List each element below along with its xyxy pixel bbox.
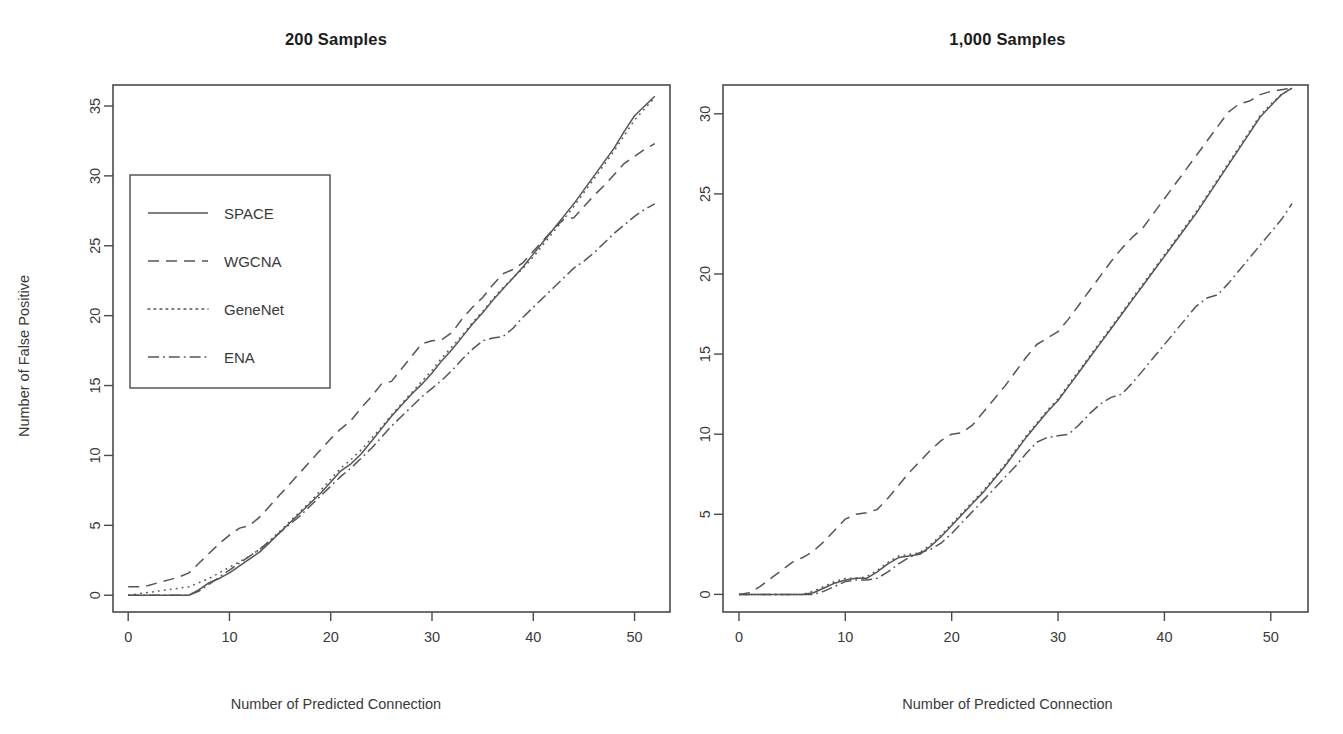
legend-label-genenet: GeneNet <box>224 301 285 318</box>
x-tick-label: 0 <box>735 629 743 645</box>
x-tick-label: 20 <box>944 629 960 645</box>
y-tick-label: 20 <box>87 308 103 324</box>
y-tick-label: 30 <box>697 106 713 122</box>
x-tick-label: 10 <box>837 629 853 645</box>
x-tick-label: 20 <box>323 629 339 645</box>
y-tick-label: 25 <box>697 186 713 202</box>
plot-area-right: 01020304050051015202530 <box>672 0 1343 734</box>
x-tick-label: 50 <box>1263 629 1279 645</box>
x-tick-label: 30 <box>1050 629 1066 645</box>
x-tick-label: 10 <box>221 629 237 645</box>
y-tick-label: 25 <box>87 238 103 254</box>
y-tick-label: 35 <box>87 98 103 114</box>
panel-200-samples: 200 Samples Number of False Positive Num… <box>0 0 672 734</box>
legend-label-space: SPACE <box>224 205 274 222</box>
series-line-space <box>739 88 1292 594</box>
x-tick-label: 40 <box>1156 629 1172 645</box>
x-tick-label: 40 <box>525 629 541 645</box>
y-tick-label: 5 <box>697 510 713 518</box>
series-line-wgcna <box>739 88 1292 594</box>
y-tick-label: 0 <box>697 590 713 598</box>
legend-label-wgcna: WGCNA <box>224 253 282 270</box>
x-tick-label: 50 <box>626 629 642 645</box>
panel-1000-samples: 1,000 Samples Number of Predicted Connec… <box>672 0 1343 734</box>
x-tick-label: 30 <box>424 629 440 645</box>
y-tick-label: 5 <box>87 521 103 529</box>
plot-frame <box>723 85 1308 612</box>
y-tick-label: 0 <box>87 591 103 599</box>
legend: SPACEWGCNAGeneNetENA <box>130 175 330 388</box>
plot-area-left: 0102030405005101520253035SPACEWGCNAGeneN… <box>0 0 672 734</box>
y-tick-label: 20 <box>697 266 713 282</box>
y-tick-label: 10 <box>87 447 103 463</box>
y-tick-label: 30 <box>87 168 103 184</box>
y-tick-label: 15 <box>697 346 713 362</box>
y-tick-label: 10 <box>697 426 713 442</box>
series-line-ena <box>739 204 1292 595</box>
y-tick-label: 15 <box>87 377 103 393</box>
legend-label-ena: ENA <box>224 349 255 366</box>
series-line-genenet <box>739 88 1292 594</box>
figure-root: 200 Samples Number of False Positive Num… <box>0 0 1343 734</box>
x-tick-label: 0 <box>124 629 132 645</box>
